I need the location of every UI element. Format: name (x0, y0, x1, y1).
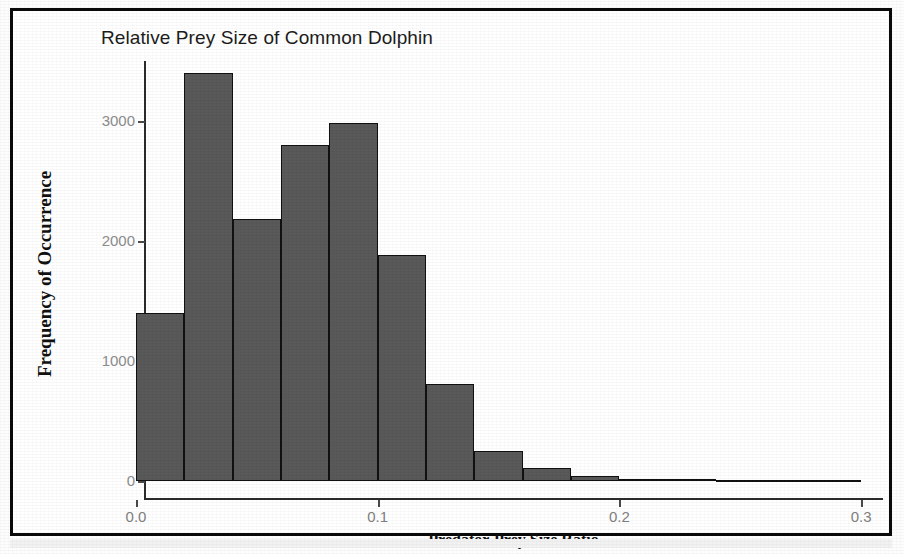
x-axis-tick-label: 0.2 (589, 508, 649, 525)
histogram-bar (474, 451, 522, 481)
histogram-bar (136, 313, 184, 481)
y-axis-tick-label: 1000 (69, 352, 135, 369)
histogram-bar (233, 219, 281, 481)
x-axis-tick (861, 500, 863, 507)
histogram-bar (571, 476, 619, 481)
histogram-bar (523, 468, 571, 481)
x-axis-tick-label: 0.3 (831, 508, 891, 525)
y-axis-tick-label: 3000 (69, 112, 135, 129)
x-axis-line (144, 498, 883, 500)
chart-title: Relative Prey Size of Common Dolphin (101, 27, 433, 49)
x-axis-tick (619, 500, 621, 507)
histogram-bar (764, 480, 812, 482)
y-axis-tick (138, 121, 145, 123)
y-axis-tick-label: 2000 (69, 232, 135, 249)
x-axis-tick (136, 500, 138, 507)
histogram-bar (619, 479, 667, 481)
y-axis-tick (138, 241, 145, 243)
histogram-bar (668, 479, 716, 481)
y-axis-tick-label: 0 (69, 472, 135, 489)
histogram-bar (281, 145, 329, 481)
x-axis-tick (378, 500, 380, 507)
histogram-bar (378, 255, 426, 481)
histogram-bar (716, 480, 764, 482)
histogram-bar (184, 73, 232, 481)
y-axis-title: Frequency of Occurrence (34, 94, 56, 454)
x-axis-tick-label: 0.1 (348, 508, 408, 525)
histogram-bar (426, 384, 474, 481)
y-axis-tick (138, 481, 145, 483)
page-bottom-strip (10, 539, 892, 548)
x-axis-tick-label: 0.0 (106, 508, 166, 525)
figure-frame: Relative Prey Size of Common Dolphin 010… (10, 8, 892, 536)
scanned-page: Relative Prey Size of Common Dolphin 010… (0, 0, 904, 554)
histogram-bar (329, 123, 377, 481)
histogram-bar (813, 480, 861, 482)
